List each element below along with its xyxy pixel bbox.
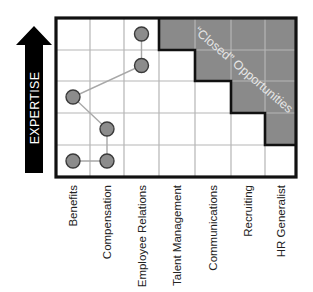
path-node-5 [135, 59, 149, 73]
column-label-benefits: Benefits [67, 185, 79, 227]
column-labels: BenefitsCompensationEmployee RelationsTa… [67, 184, 287, 287]
column-label-compensation: Compensation [101, 185, 113, 259]
career-path-diagram: EXPERTISE “Closed” Opportunities Benefit… [0, 0, 313, 292]
closed-region-cell-row-0 [159, 18, 296, 50]
skills-grid: “Closed” Opportunities [56, 18, 296, 177]
path-node-4 [66, 90, 80, 104]
column-label-hr-generalist: HR Generalist [275, 184, 287, 257]
closed-region-cell-row-3 [265, 113, 296, 145]
column-label-employee-relations: Employee Relations [136, 185, 148, 288]
expertise-arrow: EXPERTISE [16, 26, 52, 173]
path-node-2 [100, 154, 114, 168]
path-node-6 [135, 27, 149, 41]
column-label-communications: Communications [207, 185, 219, 271]
path-node-1 [66, 154, 80, 168]
path-node-3 [100, 122, 114, 136]
column-label-recruiting: Recruiting [242, 185, 254, 237]
axis-label-expertise: EXPERTISE [28, 72, 42, 145]
column-label-talent-management: Talent Management [171, 184, 183, 286]
